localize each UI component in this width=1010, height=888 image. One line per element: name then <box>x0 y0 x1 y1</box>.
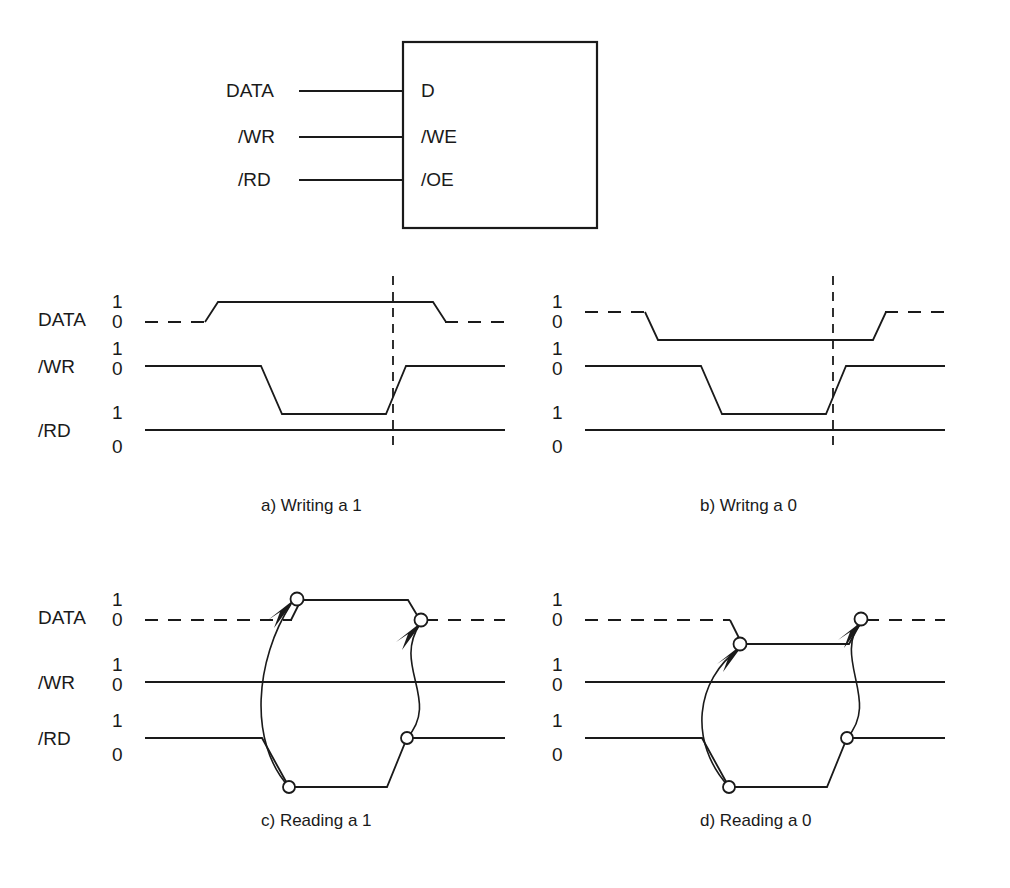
panel-d-rd-trace <box>585 738 945 787</box>
panel-c-data-level-low: 0 <box>112 610 123 629</box>
panel-d-node-rd-falling <box>723 781 735 793</box>
block-pin-d: D <box>421 81 435 100</box>
diagram-vector-layer <box>0 0 1010 888</box>
panel-c-node-data-float <box>415 614 428 627</box>
panel-c-edge-nodes <box>283 593 428 794</box>
panel-c-rd-level-high: 1 <box>112 711 123 730</box>
panel-a-data-level-high: 1 <box>112 292 123 311</box>
panel-b-wr-level-high: 1 <box>552 339 563 358</box>
panel-c-label-rd: /RD <box>38 729 71 748</box>
panel-a-rd-level-high: 1 <box>112 403 123 422</box>
panel-d-node-data-float <box>855 613 868 626</box>
panel-a-waveforms <box>145 276 505 452</box>
panel-d-caption: d) Reading a 0 <box>700 812 812 829</box>
panel-c-waveforms <box>145 600 505 787</box>
panel-c-callout-fall <box>407 624 420 738</box>
panel-d-edge-nodes <box>723 613 868 794</box>
panel-a-data-trace <box>205 302 446 322</box>
panel-d-data-level-high: 1 <box>552 590 563 609</box>
panel-a-rd-level-low: 0 <box>112 437 123 456</box>
panel-b-data-level-high: 1 <box>552 292 563 311</box>
panel-d-wr-level-low: 0 <box>552 675 563 694</box>
panel-b-wr-level-low: 0 <box>552 359 563 378</box>
panel-c-caption: c) Reading a 1 <box>261 812 372 829</box>
block-pin-we: /WE <box>421 127 457 146</box>
panel-d-node-rd-rising <box>841 732 853 744</box>
block-signal-rd: /RD <box>238 170 271 189</box>
panel-d-rd-level-low: 0 <box>552 745 563 764</box>
panel-b-wr-trace <box>585 366 945 414</box>
panel-d-data-level-low: 0 <box>552 610 563 629</box>
panel-c-node-rd-falling <box>283 781 295 793</box>
panel-c-wr-level-low: 0 <box>112 675 123 694</box>
panel-a-label-data: DATA <box>38 310 86 329</box>
block-signal-data: DATA <box>226 81 274 100</box>
panel-c-callout-arrowheads <box>268 598 424 650</box>
panel-c-data-trace <box>291 600 420 620</box>
block-pin-oe: /OE <box>421 170 454 189</box>
panel-d-data-trace <box>730 620 862 644</box>
panel-a-data-level-low: 0 <box>112 312 123 331</box>
panel-c-callout-rise <box>261 604 291 787</box>
panel-d-node-data-falling <box>734 638 747 651</box>
panel-d-waveforms <box>585 620 945 787</box>
panel-a-caption: a) Writing a 1 <box>261 497 362 514</box>
panel-b-data-level-low: 0 <box>552 312 563 331</box>
panel-a-wr-level-high: 1 <box>112 339 123 358</box>
panel-b-rd-level-high: 1 <box>552 403 563 422</box>
panel-a-label-wr: /WR <box>38 357 75 376</box>
panel-c-node-data-rising <box>291 593 304 606</box>
panel-c-rd-trace <box>145 738 505 787</box>
panel-a-label-rd: /RD <box>38 421 71 440</box>
panel-b-waveforms <box>585 276 945 452</box>
panel-b-caption: b) Writng a 0 <box>700 497 797 514</box>
panel-c-wr-level-high: 1 <box>112 655 123 674</box>
panel-b-data-trace <box>645 312 886 340</box>
block-signal-wr: /WR <box>238 127 275 146</box>
panel-c-rd-level-low: 0 <box>112 745 123 764</box>
panel-c-label-wr: /WR <box>38 673 75 692</box>
panel-d-callout-fall <box>702 648 740 787</box>
panel-d-rd-level-high: 1 <box>552 711 563 730</box>
panel-a-wr-trace <box>145 366 505 414</box>
panel-c-callouts <box>261 604 420 787</box>
panel-c-label-data: DATA <box>38 608 86 627</box>
panel-c-data-level-high: 1 <box>112 590 123 609</box>
panel-b-rd-level-low: 0 <box>552 437 563 456</box>
panel-d-wr-level-high: 1 <box>552 655 563 674</box>
panel-c-node-rd-rising <box>401 732 413 744</box>
panel-a-wr-level-low: 0 <box>112 359 123 378</box>
figure-canvas: DATA /WR /RD D /WE /OE DATA /WR /RD 1 0 … <box>0 0 1010 888</box>
